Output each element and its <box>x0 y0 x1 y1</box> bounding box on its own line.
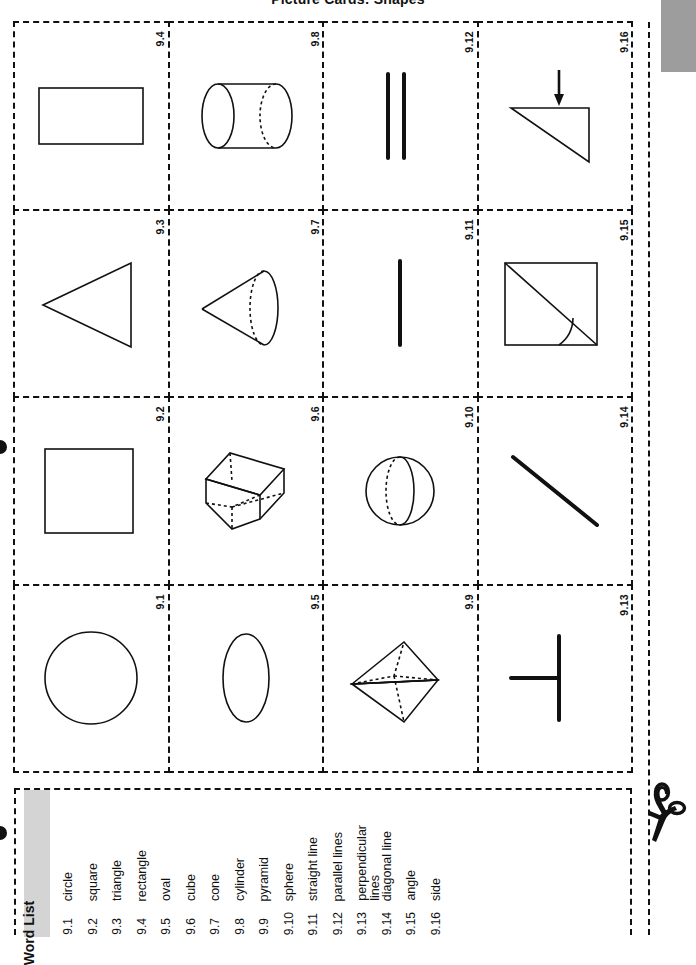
circle-shape <box>15 586 168 772</box>
word-list-item: 9.9pyramid <box>256 790 281 937</box>
picture-card[interactable]: 9.13 <box>477 584 634 774</box>
straight-line-shape <box>324 211 477 397</box>
picture-card[interactable]: 9.7 <box>168 209 325 399</box>
picture-card-label: 9.2 <box>155 406 166 422</box>
word-list-item-number: 9.15 <box>405 912 417 935</box>
word-list-item: 9.1circle <box>60 790 85 937</box>
word-list-item: 9.3triangle <box>109 790 134 937</box>
word-list-item-number: 9.2 <box>87 918 99 935</box>
word-list-item-word: square <box>87 863 100 901</box>
word-list-item: 9.13perpendicular lines <box>354 790 379 937</box>
picture-card[interactable]: 9.8 <box>168 21 325 211</box>
picture-card[interactable]: 9.12 <box>322 21 479 211</box>
word-list-item: 9.12parallel lines <box>330 790 355 937</box>
angle-square-diagonal-shape <box>479 211 632 397</box>
rectangle-shape <box>15 23 168 209</box>
picture-card[interactable]: 9.16 <box>477 21 634 211</box>
word-list-item-word: cube <box>185 874 198 901</box>
picture-card-label: 9.15 <box>619 219 630 241</box>
square-shape <box>15 398 168 584</box>
cylinder-shape <box>170 23 323 209</box>
oval-shape <box>170 586 323 772</box>
picture-card[interactable]: 9.9 <box>322 584 479 774</box>
picture-card-grid: 9.49.89.129.169.39.79.119.159.29.69.109.… <box>14 22 632 772</box>
word-list-panel: Word List 9.1circle9.2square9.3triangle9… <box>14 788 632 935</box>
word-list-item-word: cylinder <box>234 858 247 901</box>
word-list-item: 9.10sphere <box>281 790 306 937</box>
page-title: Picture Cards: Shapes <box>0 0 696 7</box>
diagonal-line-shape <box>479 398 632 584</box>
word-list-item-number: 9.6 <box>185 918 197 935</box>
word-list-item-number: 9.9 <box>258 918 270 935</box>
word-list-item: 9.15angle <box>403 790 428 937</box>
word-list-item-word: parallel lines <box>332 832 345 901</box>
picture-card[interactable]: 9.10 <box>322 396 479 586</box>
picture-card-label: 9.3 <box>155 219 166 235</box>
word-list-item-number: 9.11 <box>307 913 319 935</box>
cone-shape <box>170 211 323 397</box>
word-list-items: 9.1circle9.2square9.3triangle9.4rectangl… <box>60 790 452 937</box>
word-list-item-number: 9.13 <box>356 912 368 935</box>
picture-card-label: 9.16 <box>619 31 630 53</box>
word-list-item-number: 9.7 <box>209 918 221 935</box>
triangle-shape <box>15 211 168 397</box>
word-list-item-word: diagonal line <box>381 831 394 901</box>
picture-card-label: 9.8 <box>310 31 321 47</box>
word-list-item: 9.11straight line <box>305 790 330 937</box>
picture-card-label: 9.5 <box>310 594 321 610</box>
picture-card-label: 9.7 <box>310 219 321 235</box>
word-list-item-word: sphere <box>283 863 296 901</box>
binding-mark-icon <box>0 440 7 454</box>
picture-card[interactable]: 9.3 <box>13 209 170 399</box>
word-list-item: 9.6cube <box>183 790 208 937</box>
picture-card[interactable]: 9.4 <box>13 21 170 211</box>
word-list-item-number: 9.16 <box>430 912 442 935</box>
picture-card[interactable]: 9.14 <box>477 396 634 586</box>
word-list-item-word: angle <box>405 870 418 901</box>
page-edge-tab <box>661 0 696 72</box>
picture-card[interactable]: 9.11 <box>322 209 479 399</box>
word-list-item-number: 9.14 <box>381 912 393 935</box>
parallel-lines-shape <box>324 23 477 209</box>
word-list-item-word: side <box>430 878 443 901</box>
picture-card[interactable]: 9.1 <box>13 584 170 774</box>
picture-card-label: 9.11 <box>464 219 475 240</box>
word-list-item: 9.2square <box>85 790 110 937</box>
pyramid-shape <box>324 586 477 772</box>
word-list-item: 9.14diagonal line <box>379 790 404 937</box>
word-list-item-number: 9.5 <box>160 918 172 935</box>
word-list-item-word: oval <box>160 878 173 901</box>
side-arrow-triangle-shape <box>479 23 632 209</box>
word-list-item-word: pyramid <box>258 857 271 901</box>
picture-card-label: 9.14 <box>619 406 630 428</box>
word-list-item-number: 9.3 <box>111 918 123 935</box>
word-list-item: 9.8cylinder <box>232 790 257 937</box>
picture-card[interactable]: 9.5 <box>168 584 325 774</box>
picture-card[interactable]: 9.2 <box>13 396 170 586</box>
picture-card-label: 9.9 <box>464 594 475 610</box>
word-list-item: 9.4rectangle <box>134 790 159 937</box>
word-list-item-word: rectangle <box>136 850 149 901</box>
word-list-item-word: cone <box>209 874 222 901</box>
cube-shape <box>170 398 323 584</box>
word-list-item-number: 9.8 <box>234 918 246 935</box>
word-list-item: 9.16side <box>428 790 453 937</box>
scissors-icon <box>632 778 688 848</box>
picture-card-label: 9.13 <box>619 594 630 616</box>
picture-card-label: 9.12 <box>464 31 475 53</box>
word-list-header-label: Word List <box>21 901 37 965</box>
word-list-item-word: triangle <box>111 860 124 901</box>
word-list-item: 9.7cone <box>207 790 232 937</box>
picture-card-label: 9.4 <box>155 31 166 47</box>
word-list-item-number: 9.1 <box>62 918 74 935</box>
perpendicular-lines-shape <box>479 586 632 772</box>
word-list-item-number: 9.12 <box>332 912 344 935</box>
sphere-shape <box>324 398 477 584</box>
picture-card[interactable]: 9.15 <box>477 209 634 399</box>
word-list-item-word: straight line <box>307 837 320 901</box>
picture-card-label: 9.10 <box>464 406 475 428</box>
word-list-item-number: 9.4 <box>136 918 148 935</box>
word-list-item: 9.5oval <box>158 790 183 937</box>
picture-card[interactable]: 9.6 <box>168 396 325 586</box>
word-list-header: Word List <box>24 790 50 937</box>
